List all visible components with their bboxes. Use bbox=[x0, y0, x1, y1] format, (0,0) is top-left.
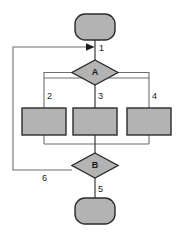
arrowhead-feedback-into-spine bbox=[86, 43, 95, 51]
node-start-terminator[interactable] bbox=[75, 14, 115, 40]
node-decision-b-label: B bbox=[92, 160, 99, 170]
node-process-middle[interactable] bbox=[73, 108, 117, 135]
node-process-right[interactable] bbox=[127, 108, 171, 135]
node-end-terminator[interactable] bbox=[75, 198, 115, 224]
flowchart-canvas: A B 1 2 3 4 5 6 bbox=[0, 0, 184, 238]
connector-decision-a-left-leg bbox=[44, 73, 72, 79]
edge-label-1: 1 bbox=[99, 43, 104, 53]
edge-label-2: 2 bbox=[47, 91, 52, 101]
edge-label-4: 4 bbox=[152, 91, 157, 101]
edge-label-3: 3 bbox=[98, 91, 103, 101]
connector-decision-a-right-leg bbox=[118, 73, 149, 79]
edge-label-6: 6 bbox=[42, 173, 47, 183]
edge-label-5: 5 bbox=[98, 184, 103, 194]
node-decision-a-label: A bbox=[92, 67, 99, 77]
node-process-left[interactable] bbox=[22, 108, 66, 135]
flowchart-diagram: A B 1 2 3 4 5 6 bbox=[0, 0, 184, 238]
